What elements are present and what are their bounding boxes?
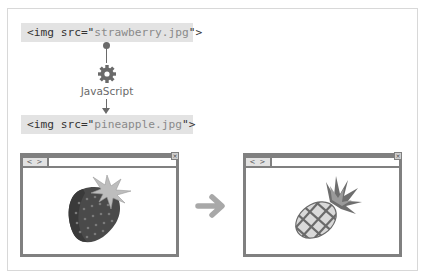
pineapple-image — [286, 174, 366, 246]
browser-content — [246, 168, 399, 254]
arrow-right-icon — [195, 193, 227, 219]
code-after-prefix: <img src=" — [27, 118, 94, 131]
browser-window-after: < > × — [243, 153, 402, 257]
gear-icon — [97, 64, 117, 84]
address-bar: < > — [246, 158, 399, 168]
browser-window-before: < > × — [20, 153, 179, 257]
javascript-label: JavaScript — [70, 85, 144, 97]
down-arrow-icon — [102, 108, 110, 114]
browser-content — [23, 168, 176, 254]
nav-buttons[interactable]: < > — [23, 158, 49, 166]
address-bar: < > — [23, 158, 176, 168]
code-before-suffix: "> — [189, 26, 202, 39]
code-before-value: strawberry.jpg — [94, 26, 188, 39]
code-after: <img src="pineapple.jpg"> — [21, 115, 193, 134]
connector-line-top — [106, 45, 107, 63]
strawberry-image — [63, 175, 133, 247]
code-after-suffix: "> — [182, 118, 195, 131]
code-before-prefix: <img src=" — [27, 26, 94, 39]
code-after-value: pineapple.jpg — [94, 118, 182, 131]
code-before: <img src="strawberry.jpg"> — [21, 23, 193, 42]
close-icon[interactable]: × — [394, 152, 402, 160]
close-icon[interactable]: × — [171, 152, 179, 160]
nav-buttons[interactable]: < > — [246, 158, 272, 166]
